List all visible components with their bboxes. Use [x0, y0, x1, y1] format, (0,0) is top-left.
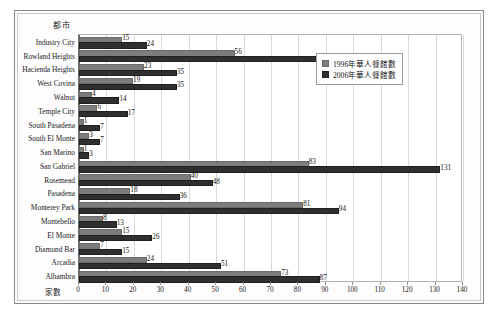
- category-label: Pasadena: [48, 189, 76, 198]
- category-label: Hacienda Heights: [22, 65, 75, 74]
- x-tick-label-30: 30: [157, 286, 164, 294]
- bar-2006: [79, 208, 339, 214]
- bar-2006: [79, 249, 122, 255]
- chart-row: Pasadena1836: [79, 187, 461, 201]
- category-label: West Covina: [37, 79, 75, 88]
- bar-value-label: 35: [177, 69, 184, 76]
- chart-row: Montebello813: [79, 214, 461, 228]
- x-tick-label-110: 110: [374, 286, 385, 294]
- x-tick-mark-0: [78, 282, 79, 285]
- bar-2006: [79, 235, 152, 241]
- category-label: Alhambra: [45, 272, 75, 281]
- x-tick-label-40: 40: [184, 286, 191, 294]
- chart-row: South Pasadena17: [79, 118, 461, 132]
- chart-row: San Marino13: [79, 145, 461, 159]
- chart-row: Hacienda Heights2335: [79, 63, 461, 77]
- x-tick-mark-70: [270, 282, 271, 285]
- x-tick-mark-20: [133, 282, 134, 285]
- x-tick-label-130: 130: [429, 286, 440, 294]
- chart-row: Walnut414: [79, 90, 461, 104]
- y-axis-title: 都市: [53, 19, 70, 30]
- category-label: El Monte: [47, 230, 75, 239]
- category-label: San Gabriel: [40, 161, 75, 170]
- category-label: Rosemead: [44, 175, 75, 184]
- x-tick-mark-30: [160, 282, 161, 285]
- x-tick-mark-60: [243, 282, 244, 285]
- bar-value-label: 36: [180, 193, 187, 200]
- x-tick-label-50: 50: [212, 286, 219, 294]
- bar-2006: [79, 180, 213, 186]
- bar-value-label: 94: [339, 206, 346, 213]
- bar-value-label: 17: [128, 110, 135, 117]
- chart-row: South El Monte37: [79, 131, 461, 145]
- legend-swatch-2006-icon: [322, 71, 329, 78]
- chart-row: Rowland Heights5687: [79, 49, 461, 63]
- category-label: San Marino: [40, 148, 75, 157]
- category-label: Rowland Heights: [23, 51, 75, 60]
- plot-area: Industry City1524Rowland Heights5687Haci…: [78, 34, 462, 282]
- bar-value-label: 13: [117, 220, 124, 227]
- bar-2006: [79, 221, 117, 227]
- legend-swatch-1996-icon: [322, 60, 329, 67]
- bar-2006: [79, 194, 180, 200]
- x-tick-mark-90: [325, 282, 326, 285]
- chart-row: Diamond Bar715: [79, 242, 461, 256]
- bar-2006: [79, 70, 177, 76]
- x-tick-mark-40: [188, 282, 189, 285]
- x-tick-label-120: 120: [402, 286, 413, 294]
- bar-2006: [79, 166, 440, 172]
- legend-label-1996: 1996年華人餐館數: [333, 58, 396, 69]
- x-axis-unit-label: 家數: [45, 286, 61, 297]
- legend-item-2006: 2006年華人餐館數: [322, 69, 396, 80]
- legend-item-1996: 1996年華人餐館數: [322, 58, 396, 69]
- x-tick-mark-120: [407, 282, 408, 285]
- category-label: Walnut: [54, 92, 75, 101]
- bar-2006: [79, 56, 320, 62]
- category-label: Diamond Bar: [35, 244, 75, 253]
- bar-2006: [79, 42, 147, 48]
- category-label: South Pasadena: [28, 120, 75, 129]
- bar-value-label: 35: [177, 82, 184, 89]
- x-tick-mark-50: [215, 282, 216, 285]
- gridline-140: [463, 35, 464, 281]
- chart-row: San Gabriel83131: [79, 159, 461, 173]
- bar-value-label: 24: [147, 41, 154, 48]
- chart-row: Monterey Park8194: [79, 200, 461, 214]
- x-tick-label-100: 100: [347, 286, 358, 294]
- chart-row: Arcadia2451: [79, 255, 461, 269]
- chart-legend: 1996年華人餐館數 2006年華人餐館數: [316, 53, 403, 85]
- category-label: Montebello: [41, 216, 75, 225]
- chart-row: Industry City1524: [79, 35, 461, 49]
- x-tick-mark-10: [105, 282, 106, 285]
- x-tick-label-80: 80: [294, 286, 301, 294]
- chart-row: Temple City617: [79, 104, 461, 118]
- chart-row: El Monte1526: [79, 228, 461, 242]
- bar-value-label: 14: [119, 96, 126, 103]
- x-tick-label-140: 140: [457, 286, 468, 294]
- x-tick-label-60: 60: [239, 286, 246, 294]
- bar-value-label: 3: [89, 151, 93, 158]
- bar-2006: [79, 263, 221, 269]
- chart-row: West Covina1935: [79, 76, 461, 90]
- chart-figure: 都市 Industry City1524Rowland Heights5687H…: [14, 10, 484, 304]
- category-label: Arcadia: [52, 258, 75, 267]
- x-tick-mark-100: [352, 282, 353, 285]
- bar-value-label: 15: [122, 248, 129, 255]
- bar-value-label: 26: [152, 234, 159, 241]
- bar-value-label: 131: [440, 165, 451, 172]
- x-tick-label-0: 0: [76, 286, 80, 294]
- x-tick-mark-140: [462, 282, 463, 285]
- category-label: South El Monte: [28, 134, 75, 143]
- x-tick-mark-110: [380, 282, 381, 285]
- x-tick-mark-80: [297, 282, 298, 285]
- chart-row: Alhambra7387: [79, 269, 461, 283]
- bar-value-label: 7: [100, 137, 104, 144]
- x-tick-mark-130: [435, 282, 436, 285]
- chart-row: Rosemead4048: [79, 173, 461, 187]
- x-tick-label-10: 10: [102, 286, 109, 294]
- bar-2006: [79, 84, 177, 90]
- x-axis: 0102030405060708090100110120130140: [78, 282, 462, 304]
- bar-value-label: 48: [213, 179, 220, 186]
- x-tick-label-20: 20: [129, 286, 136, 294]
- x-tick-label-90: 90: [321, 286, 328, 294]
